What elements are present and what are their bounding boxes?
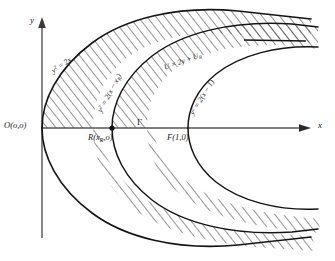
diagram-canvas bbox=[0, 0, 335, 261]
parabola-diagram: y x O(o,o) R(xR,o) Γ F(1,0) y2 = 2x y2 =… bbox=[0, 0, 335, 261]
x-axis-arrow bbox=[299, 124, 311, 132]
y-axis-arrow bbox=[38, 17, 46, 28]
point-markers bbox=[109, 125, 114, 130]
marker-point-r bbox=[109, 125, 114, 130]
